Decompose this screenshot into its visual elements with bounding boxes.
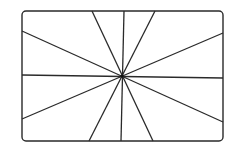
radiating-lines-diagram xyxy=(0,0,235,152)
center-point xyxy=(120,74,123,77)
